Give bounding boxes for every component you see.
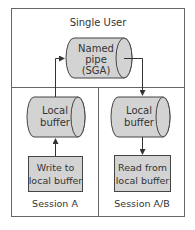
left-buffer-label-2: buffer	[40, 117, 71, 128]
write-box-label-2: local buffer	[29, 175, 83, 186]
right-buffer-label-2: buffer	[124, 117, 155, 128]
read-from-local-buffer-box: Read from local buffer	[115, 156, 171, 192]
right-local-buffer-cylinder: Local buffer	[111, 97, 170, 137]
left-local-buffer-cylinder: Local buffer	[27, 97, 85, 137]
write-box-label-1: Write to	[37, 162, 75, 173]
session-a-label: Session A	[32, 198, 78, 209]
named-pipe-label-3: (SGA)	[82, 65, 111, 76]
left-buffer-label-1: Local	[42, 105, 68, 116]
read-box-label-2: local buffer	[116, 175, 170, 186]
right-buffer-label-1: Local	[126, 105, 152, 116]
named-pipe-label-1: Named	[78, 43, 114, 54]
diagram-title: Single User	[70, 17, 128, 28]
single-user-diagram: Single User Named pipe (SGA) Local buffe…	[0, 0, 195, 230]
read-box-label-1: Read from	[118, 162, 167, 173]
named-pipe-label-2: pipe	[85, 54, 107, 65]
session-ab-label: Session A/B	[114, 198, 169, 209]
write-to-local-buffer-box: Write to local buffer	[29, 157, 83, 192]
named-pipe-cylinder: Named pipe (SGA)	[66, 38, 132, 78]
arrow-buffer-to-pipe	[56, 59, 65, 98]
